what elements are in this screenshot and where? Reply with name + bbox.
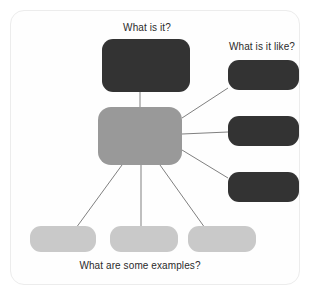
diagram-canvas: What is it? What is it like? What are so… (0, 0, 323, 295)
label-what-are-some-examples: What are some examples? (60, 260, 220, 272)
label-what-is-it: What is it? (104, 22, 190, 34)
node-example-2[interactable] (110, 226, 178, 252)
node-central-concept[interactable] (98, 107, 182, 165)
node-attribute-3[interactable] (228, 172, 299, 202)
node-example-1[interactable] (30, 226, 96, 252)
node-attribute-1[interactable] (228, 60, 299, 90)
node-definition[interactable] (102, 39, 190, 92)
label-what-is-it-like: What is it like? (216, 41, 308, 53)
node-attribute-2[interactable] (228, 116, 299, 146)
node-example-3[interactable] (188, 226, 256, 252)
